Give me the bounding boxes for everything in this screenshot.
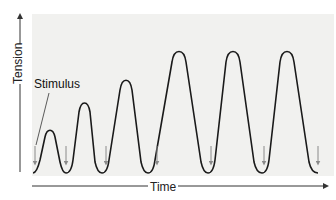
tension-curve xyxy=(33,52,318,174)
tension-chart xyxy=(0,0,336,200)
y-axis-label: Tension xyxy=(12,44,24,84)
stimulus-arrows xyxy=(35,146,318,163)
stimulus-leader-line xyxy=(36,93,49,145)
stimulus-annotation: Stimulus xyxy=(34,77,80,91)
x-axis-label: Time xyxy=(148,180,178,194)
